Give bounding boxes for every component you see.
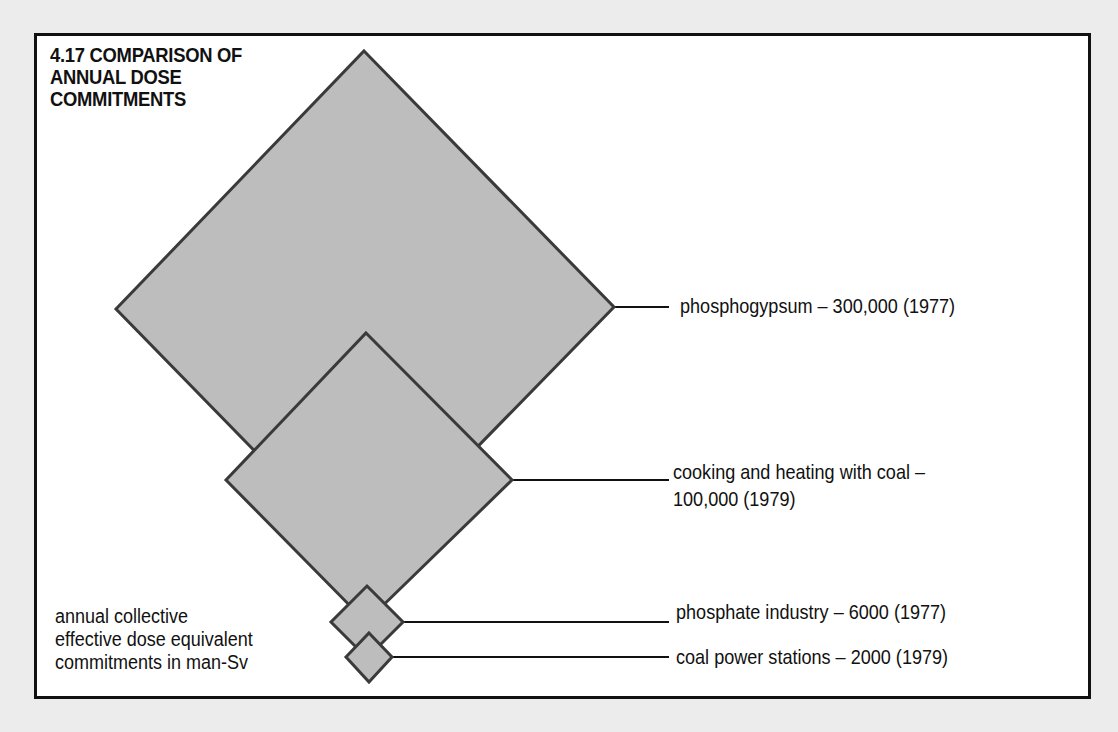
label-text: phosphate industry – 6000 (1977) [676, 598, 946, 625]
label-phosphate-industry: phosphate industry – 6000 (1977) [676, 598, 946, 625]
title-line: COMMITMENTS [50, 88, 242, 110]
label-text: phosphogypsum – 300,000 (1977) [680, 292, 955, 319]
label-cooking-heating: cooking and heating with coal – 100,000 … [673, 458, 925, 512]
legend-line: effective dose equivalent [55, 628, 253, 651]
legend-line: annual collective [55, 605, 253, 628]
legend-line: commitments in man-Sv [55, 651, 253, 674]
label-text: coal power stations – 2000 (1979) [676, 643, 948, 670]
unit-legend: annual collective effective dose equival… [55, 605, 253, 674]
diagram-title: 4.17 COMPARISON OF ANNUAL DOSE COMMITMEN… [50, 44, 242, 110]
label-text: 100,000 (1979) [673, 485, 925, 512]
label-coal-power: coal power stations – 2000 (1979) [676, 643, 948, 670]
label-text: cooking and heating with coal – [673, 458, 925, 485]
title-line: 4.17 COMPARISON OF [50, 44, 242, 66]
title-line: ANNUAL DOSE [50, 66, 242, 88]
label-phosphogypsum: phosphogypsum – 300,000 (1977) [680, 292, 955, 319]
